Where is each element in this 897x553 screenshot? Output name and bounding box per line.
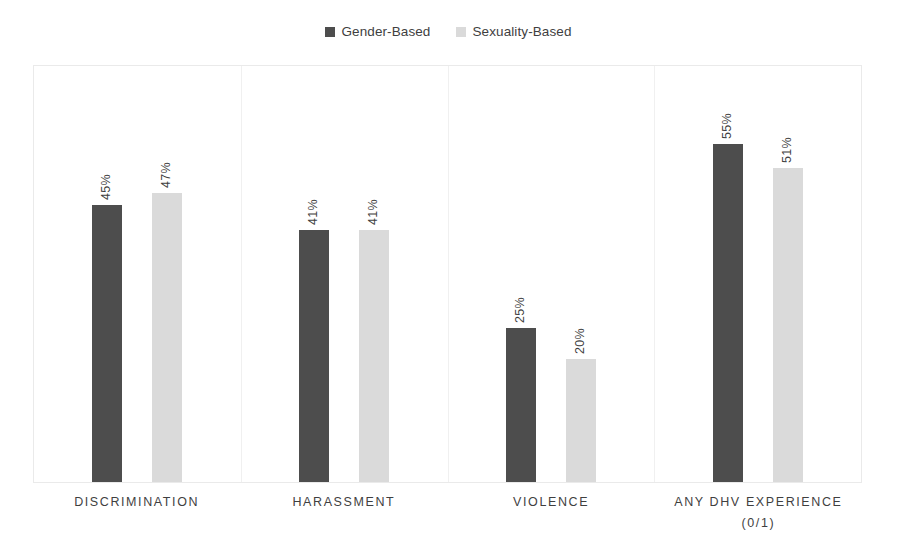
legend-entry-sexuality-based[interactable]: Sexuality-Based xyxy=(456,24,571,39)
category-axis-labels: DISCRIMINATION HARASSMENT VIOLENCE ANY D… xyxy=(33,492,862,534)
legend-swatch-icon-gender-based xyxy=(325,27,335,37)
bar-group-discrimination: 45% 47% xyxy=(34,66,241,482)
bar-any-dhv-gender[interactable] xyxy=(713,144,743,482)
bar-slot-harassment-gender: 41% xyxy=(299,66,329,482)
legend-label-sexuality-based: Sexuality-Based xyxy=(472,24,571,39)
bar-group-violence: 25% 20% xyxy=(448,66,655,482)
plot-area: 45% 47% 41% 41% xyxy=(33,65,862,483)
bar-groups: 45% 47% 41% 41% xyxy=(34,66,861,482)
category-label-violence: VIOLENCE xyxy=(448,492,655,534)
bar-group-harassment: 41% 41% xyxy=(241,66,448,482)
chart-legend: Gender-Based Sexuality-Based xyxy=(0,24,897,39)
category-label-any-dhv-experience: ANY DHV EXPERIENCE (0/1) xyxy=(655,492,862,534)
bar-slot-any-dhv-sexuality: 51% xyxy=(773,66,803,482)
bar-violence-sexuality[interactable] xyxy=(566,359,596,482)
bar-value-violence-sexuality: 20% xyxy=(573,328,587,354)
bar-value-discrimination-gender: 45% xyxy=(99,174,113,200)
bar-value-violence-gender: 25% xyxy=(513,297,527,323)
bar-value-harassment-sexuality: 41% xyxy=(366,199,380,225)
bar-discrimination-sexuality[interactable] xyxy=(152,193,182,482)
bar-value-harassment-gender: 41% xyxy=(306,199,320,225)
bar-slot-violence-sexuality: 20% xyxy=(566,66,596,482)
bar-slot-discrimination-gender: 45% xyxy=(92,66,122,482)
bar-harassment-gender[interactable] xyxy=(299,230,329,482)
bar-violence-gender[interactable] xyxy=(506,328,536,482)
bar-any-dhv-sexuality[interactable] xyxy=(773,168,803,482)
category-label-harassment: HARASSMENT xyxy=(240,492,447,534)
bar-group-any-dhv-experience: 55% 51% xyxy=(654,66,861,482)
bar-value-discrimination-sexuality: 47% xyxy=(159,162,173,188)
legend-swatch-icon-sexuality-based xyxy=(456,27,466,37)
bar-slot-harassment-sexuality: 41% xyxy=(359,66,389,482)
grouped-bar-chart: Gender-Based Sexuality-Based 45% 47% xyxy=(0,0,897,553)
bar-harassment-sexuality[interactable] xyxy=(359,230,389,482)
legend-entry-gender-based[interactable]: Gender-Based xyxy=(325,24,430,39)
bar-value-any-dhv-sexuality: 51% xyxy=(780,137,794,163)
bar-slot-discrimination-sexuality: 47% xyxy=(152,66,182,482)
category-label-discrimination: DISCRIMINATION xyxy=(33,492,240,534)
bar-slot-any-dhv-gender: 55% xyxy=(713,66,743,482)
bar-discrimination-gender[interactable] xyxy=(92,205,122,482)
legend-label-gender-based: Gender-Based xyxy=(341,24,430,39)
bar-slot-violence-gender: 25% xyxy=(506,66,536,482)
bar-value-any-dhv-gender: 55% xyxy=(720,113,734,139)
